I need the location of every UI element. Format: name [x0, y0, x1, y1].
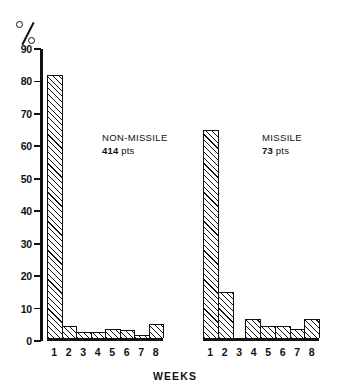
- x-axis-line-missile: [203, 338, 319, 341]
- bar: [304, 319, 320, 338]
- y-tick-label-wrap: 20: [2, 270, 32, 282]
- percent-symbol-icon: [14, 20, 42, 48]
- bars-non-missile: [47, 49, 163, 338]
- bar: [260, 326, 276, 339]
- bar: [120, 330, 136, 338]
- x-tick-label: 2: [62, 345, 77, 359]
- y-tick-label-wrap: 0: [2, 335, 32, 347]
- x-tick-label: 3: [232, 345, 247, 359]
- annotation-missile-count-unit: pts: [276, 145, 289, 156]
- y-tick-label-wrap: 80: [2, 75, 32, 87]
- x-tick-label: 5: [261, 345, 276, 359]
- bar: [203, 130, 219, 339]
- x-axis-line-non-missile: [47, 338, 163, 341]
- y-tick-label: 70: [2, 108, 32, 120]
- annotation-missile-count: 73 pts: [262, 144, 302, 157]
- x-tick-label: 1: [203, 345, 218, 359]
- bars-missile: [203, 49, 319, 338]
- annotation-non-missile: NON-MISSILE 414 pts: [102, 131, 168, 157]
- x-tick-label: 4: [247, 345, 262, 359]
- y-tick-label-wrap: 40: [2, 205, 32, 217]
- x-tick-labels-missile: 12345678: [203, 345, 319, 359]
- annotation-non-missile-name: NON-MISSILE: [102, 131, 168, 144]
- y-tick-label: 10: [2, 303, 32, 315]
- x-tick-label: 8: [149, 345, 164, 359]
- percent-upper-circle: [16, 21, 23, 28]
- x-tick-label: 6: [276, 345, 291, 359]
- y-tick-label-wrap: 50: [2, 173, 32, 185]
- annotation-non-missile-count-value: 414: [102, 145, 118, 156]
- annotation-missile: MISSILE 73 pts: [262, 131, 302, 157]
- bar: [218, 292, 234, 339]
- y-tick-label: 0: [2, 335, 32, 347]
- annotation-missile-count-value: 73: [262, 145, 273, 156]
- annotation-non-missile-count: 414 pts: [102, 144, 168, 157]
- bar: [149, 324, 165, 338]
- x-tick-label: 2: [218, 345, 233, 359]
- x-tick-label: 1: [47, 345, 62, 359]
- y-tick-label-wrap: 30: [2, 238, 32, 250]
- bar-group-non-missile: [47, 49, 163, 341]
- annotation-missile-name: MISSILE: [262, 131, 302, 144]
- y-tick-label-wrap: 10: [2, 303, 32, 315]
- y-tick-label: 80: [2, 75, 32, 87]
- annotation-non-missile-count-unit: pts: [121, 145, 134, 156]
- y-tick-label: 40: [2, 205, 32, 217]
- x-tick-labels-non-missile: 12345678: [47, 345, 163, 359]
- y-axis-line: [40, 49, 43, 341]
- y-tick-label: 50: [2, 173, 32, 185]
- x-tick-label: 7: [290, 345, 305, 359]
- bar: [105, 329, 121, 339]
- x-tick-label: 7: [134, 345, 149, 359]
- bar: [47, 75, 63, 338]
- y-tick-label: 30: [2, 238, 32, 250]
- x-tick-label: 5: [105, 345, 120, 359]
- x-tick-label: 8: [305, 345, 320, 359]
- y-tick-label-wrap: 60: [2, 140, 32, 152]
- x-tick-label: 6: [120, 345, 135, 359]
- x-axis-title: WEEKS: [0, 370, 350, 382]
- percent-lower-circle: [28, 37, 35, 44]
- bar-group-missile: [203, 49, 319, 341]
- y-tick-label: 60: [2, 140, 32, 152]
- bar: [62, 326, 78, 339]
- bar: [245, 319, 261, 338]
- chart-figure: 9080706050403020100 12345678 12345678 NO…: [0, 0, 350, 387]
- x-tick-label: 3: [76, 345, 91, 359]
- bar: [275, 326, 291, 339]
- bar: [290, 329, 306, 339]
- y-tick-label: 20: [2, 270, 32, 282]
- x-tick-label: 4: [91, 345, 106, 359]
- y-tick-label-wrap: 70: [2, 108, 32, 120]
